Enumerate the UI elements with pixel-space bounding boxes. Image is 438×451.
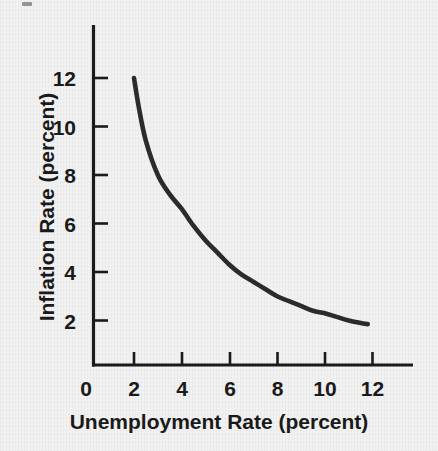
x-tick-label-12: 12 xyxy=(361,378,384,399)
x-tick-label-0: 0 xyxy=(80,378,92,399)
x-axis-title: Unemployment Rate (percent) xyxy=(0,410,438,434)
x-tick-label-6: 6 xyxy=(224,378,236,399)
x-tick-label-4: 4 xyxy=(176,378,188,399)
x-tick-label-10: 10 xyxy=(313,378,336,399)
x-tick-label-8: 8 xyxy=(272,378,284,399)
phillips-curve-line xyxy=(134,78,368,324)
y-axis-title: Inflation Rate (percent) xyxy=(35,67,59,347)
phillips-curve-figure: 12 10 8 6 4 2 0 2 4 6 8 10 12 Unemployme… xyxy=(0,0,438,451)
x-tick-label-2: 2 xyxy=(128,378,140,399)
